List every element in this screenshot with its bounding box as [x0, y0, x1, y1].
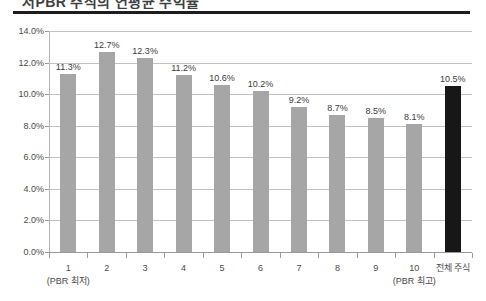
bar-value-label: 8.7% — [327, 103, 348, 113]
plot-area: 0.0%2.0%4.0%6.0%8.0%10.0%12.0%14.0%11.3%… — [49, 31, 472, 252]
x-axis-tick-label: 10(PBR 최고) — [393, 262, 436, 288]
y-axis-tick-mark — [45, 220, 49, 221]
bar: 8.7% — [329, 115, 345, 252]
y-axis-tick-mark — [45, 157, 49, 158]
bar: 10.2% — [253, 91, 269, 252]
x-axis-tick-label: 6 — [258, 262, 263, 275]
y-axis-tick-label: 0.0% — [23, 247, 44, 257]
y-axis-tick-label: 14.0% — [18, 26, 44, 36]
y-axis-tick-mark — [45, 31, 49, 32]
x-axis-tick-mark — [49, 253, 50, 258]
bar: 12.7% — [99, 52, 115, 252]
x-axis-tick-mark — [434, 253, 435, 258]
x-axis-tick-sublabel: (PBR 최고) — [393, 275, 436, 288]
bar-value-label: 11.3% — [56, 62, 81, 72]
x-axis-tick-label: 7 — [296, 262, 301, 275]
y-axis-tick-mark — [45, 63, 49, 64]
x-axis-tick-label: 4 — [181, 262, 186, 275]
x-axis-tick-mark — [241, 253, 242, 258]
bar: 12.3% — [137, 58, 153, 252]
y-axis-tick-label: 12.0% — [18, 58, 44, 68]
chart-figure: 저PBR 주식의 연평균 수익률 0.0%2.0%4.0%6.0%8.0%10.… — [0, 0, 486, 301]
y-axis-tick-label: 2.0% — [23, 215, 44, 225]
bar: 10.5% — [445, 86, 461, 252]
bar-value-label: 10.5% — [440, 74, 466, 84]
bar: 9.2% — [291, 107, 307, 252]
gridline — [49, 252, 472, 253]
y-axis-tick-label: 8.0% — [23, 121, 44, 131]
bar-value-label: 12.7% — [94, 40, 120, 50]
x-axis-tick-mark — [318, 253, 319, 258]
bar-value-label: 8.1% — [404, 112, 425, 122]
bar-value-label: 10.6% — [209, 73, 235, 83]
x-axis-tick-mark — [126, 253, 127, 258]
y-axis-tick-label: 4.0% — [23, 184, 44, 194]
chart-title: 저PBR 주식의 연평균 수익률 — [22, 0, 200, 9]
x-axis-tick-label: 5 — [220, 262, 225, 275]
title-divider-rule — [13, 11, 470, 14]
x-axis-tick-label: 8 — [335, 262, 340, 275]
y-axis-tick-mark — [45, 189, 49, 190]
x-axis-tick-mark — [280, 253, 281, 258]
x-axis-tick-mark — [203, 253, 204, 258]
gridline — [49, 31, 472, 32]
x-axis-tick-mark — [87, 253, 88, 258]
x-axis-tick-label: 3 — [143, 262, 148, 275]
x-axis-tick-label: 1(PBR 최저) — [47, 262, 90, 288]
bar-value-label: 9.2% — [289, 95, 310, 105]
y-axis-tick-label: 10.0% — [18, 89, 44, 99]
bar-value-label: 8.5% — [366, 106, 387, 116]
x-axis-tick-mark — [472, 253, 473, 258]
x-axis-tick-label: 9 — [373, 262, 378, 275]
x-axis-tick-mark — [357, 253, 358, 258]
bar-value-label: 11.2% — [171, 63, 196, 73]
y-axis-tick-label: 6.0% — [23, 152, 44, 162]
bar: 8.1% — [406, 124, 422, 252]
bar: 11.3% — [60, 74, 76, 252]
chart-title-strip: 저PBR 주식의 연평균 수익률 — [0, 0, 486, 9]
bar: 8.5% — [368, 118, 384, 252]
x-axis-tick-sublabel: (PBR 최저) — [47, 275, 90, 288]
bar: 11.2% — [176, 75, 192, 252]
y-axis-tick-mark — [45, 94, 49, 95]
x-axis-tick-label: 2 — [104, 262, 109, 275]
bar-value-label: 12.3% — [132, 46, 158, 56]
y-axis-tick-mark — [45, 126, 49, 127]
x-axis-tick-label: 전체 주식 — [436, 262, 471, 275]
bar: 10.6% — [214, 85, 230, 252]
x-axis-tick-mark — [395, 253, 396, 258]
bar-value-label: 10.2% — [248, 79, 274, 89]
x-axis-tick-mark — [164, 253, 165, 258]
